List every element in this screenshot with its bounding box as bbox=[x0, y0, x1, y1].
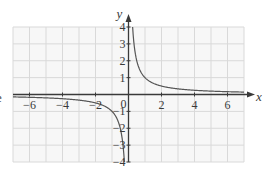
x-tick-label: −6 bbox=[23, 98, 36, 112]
x-axis-arrow-icon bbox=[247, 92, 255, 98]
x-tick-label: 4 bbox=[192, 98, 198, 112]
y-axis-label: y bbox=[115, 6, 123, 21]
y-tick-label: 2 bbox=[120, 54, 126, 68]
x-tick-label: −4 bbox=[56, 98, 69, 112]
function-graph: −6−4−2246−4−3−2−11234 x y 0 bbox=[0, 0, 269, 172]
y-tick-label: −3 bbox=[113, 138, 126, 152]
y-tick-label: −4 bbox=[113, 155, 126, 169]
x-tick-label: 2 bbox=[159, 98, 165, 112]
x-axis-label: x bbox=[255, 89, 262, 104]
x-tick-label: −2 bbox=[89, 98, 102, 112]
y-tick-label: −2 bbox=[113, 121, 126, 135]
origin-label: 0 bbox=[121, 97, 127, 111]
y-axis-arrow-icon bbox=[126, 14, 132, 22]
y-tick-label: 4 bbox=[120, 20, 126, 34]
x-tick-label: 6 bbox=[225, 98, 231, 112]
y-tick-label: 1 bbox=[120, 71, 126, 85]
y-tick-label: 3 bbox=[120, 37, 126, 51]
